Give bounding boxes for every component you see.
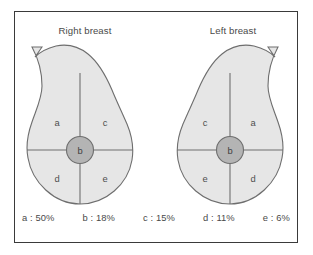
quadrant-label-left-upper-left: c	[203, 117, 208, 128]
diagram-right-breast: a c d e b	[22, 44, 148, 208]
legend-entry-e: e : 6%	[263, 212, 290, 223]
legend-entry-c: c : 15%	[143, 212, 175, 223]
quadrant-label-left-upper-right: a	[250, 117, 256, 128]
quadrant-label-left-lower-right: d	[250, 173, 255, 184]
quadrant-label-left-lower-left: e	[202, 173, 207, 184]
legend-entry-a: a : 50%	[22, 212, 55, 223]
diagram-left-breast: c a e d b	[172, 44, 298, 208]
nipple-label-left: b	[227, 145, 232, 156]
legend: a : 50% b : 18% c : 15% d : 11% e : 6%	[22, 212, 290, 223]
legend-entry-b: b : 18%	[83, 212, 116, 223]
legend-entry-d: d : 11%	[203, 212, 235, 223]
quadrant-label-right-upper-right: c	[103, 117, 108, 128]
panel-title-right-breast: Right breast	[30, 25, 140, 36]
quadrant-label-right-lower-left: d	[54, 173, 59, 184]
nipple-label-right: b	[77, 145, 82, 156]
quadrant-label-right-lower-right: e	[102, 173, 107, 184]
panel-title-left-breast: Left breast	[178, 25, 288, 36]
figure-root: Right breast Left breast a c d e b c a e…	[0, 0, 313, 255]
quadrant-label-right-upper-left: a	[54, 117, 60, 128]
